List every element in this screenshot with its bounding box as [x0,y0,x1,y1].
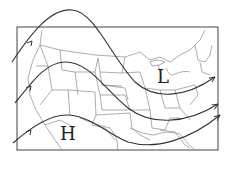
high-pressure-label: H [60,123,76,144]
southern-jet-stream-arrow [13,115,220,145]
weather-map: L H [0,0,234,177]
map-frame [17,27,218,150]
low-pressure-label: L [157,66,169,87]
arrowhead-icon [27,41,32,46]
jet-streams [12,10,220,145]
state-borders [28,30,212,150]
